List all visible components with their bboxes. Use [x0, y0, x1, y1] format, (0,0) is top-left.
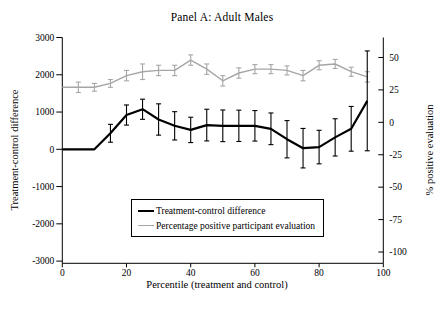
right-axis-tick-label: -75 [389, 215, 402, 225]
x-axis-tick-label: 80 [314, 268, 324, 278]
right-axis-title: % positive evaluation [424, 105, 435, 196]
right-axis-tick-label: -25 [389, 150, 402, 160]
error-bar [204, 64, 209, 74]
chart-title: Panel A: Adult Males [0, 11, 444, 23]
left-axis-title: Treatment-control difference [9, 90, 20, 211]
left-axis-tick-label: -3000 [32, 256, 54, 266]
legend-line-swatch-black [138, 210, 154, 212]
error-bar [365, 51, 370, 151]
x-axis-tick-label: 20 [122, 268, 132, 278]
right-axis-tick-label: 25 [389, 85, 399, 95]
series-line-percentage-positive-participant-evaluation [62, 60, 367, 87]
right-axis-tick-label: -50 [389, 182, 402, 192]
legend-line-swatch-gray [138, 225, 154, 226]
x-axis-tick-label: 0 [60, 268, 65, 278]
left-axis-tick-label: 0 [50, 145, 55, 155]
x-axis-tick-label: 100 [376, 268, 391, 278]
legend-label: Percentage positive participant evaluati… [156, 221, 315, 231]
x-axis-tick-label: 40 [186, 268, 196, 278]
chart-canvas: 3000200010000-1000-2000-300050250-25-50-… [0, 0, 444, 313]
x-axis-tick-label: 60 [250, 268, 260, 278]
legend-box: Treatment-control difference Percentage … [131, 199, 324, 237]
legend-item-treatment-control-difference: Treatment-control difference [138, 203, 320, 218]
series-treatment-control-difference [62, 51, 369, 168]
x-axis-title: Percentile (treatment and control) [0, 279, 434, 290]
right-axis-tick-label: 50 [389, 53, 399, 63]
right-axis-tick-label: 0 [389, 118, 394, 128]
left-axis-tick-label: -2000 [32, 219, 54, 229]
error-bar [188, 55, 193, 65]
left-axis-tick-label: 2000 [35, 70, 54, 80]
error-bar [108, 124, 113, 142]
left-axis-tick-label: 1000 [35, 107, 54, 117]
left-axis-tick-label: 3000 [35, 33, 54, 43]
legend-item-percentage-positive-evaluation: Percentage positive participant evaluati… [138, 218, 320, 233]
left-axis-tick-label: -1000 [32, 182, 54, 192]
error-bar [220, 76, 225, 86]
series-percentage-positive-participant-evaluation [62, 55, 369, 93]
right-axis-tick-label: -100 [389, 247, 407, 257]
legend-label: Treatment-control difference [156, 206, 265, 216]
